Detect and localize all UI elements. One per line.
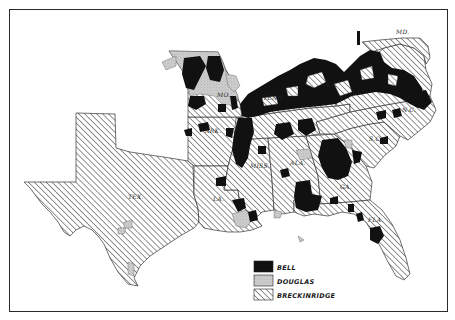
legend-swatch-breckinridge	[254, 289, 273, 300]
election-map: TEX. ARK. LA. MISS. ALA. GA. FLA. S.C. N…	[0, 0, 455, 320]
legend: BELL DOUGLAS BRECKINRIDGE	[254, 261, 336, 300]
legend-label-breckinridge: BRECKINRIDGE	[277, 292, 336, 300]
label-sc: S.C.	[369, 135, 382, 142]
legend-swatch-bell	[254, 261, 273, 272]
label-ga: GA.	[340, 183, 352, 190]
state-texas	[24, 113, 199, 286]
label-ky: KY.	[325, 81, 336, 88]
label-ark: ARK.	[204, 127, 221, 134]
label-la: LA.	[212, 195, 224, 202]
label-nc: N.C.	[401, 106, 416, 113]
label-ala: ALA.	[289, 159, 306, 166]
label-tex: TEX.	[128, 193, 144, 200]
legend-label-douglas: DOUGLAS	[277, 278, 315, 286]
label-mo: MO.	[216, 91, 231, 98]
label-fla: FLA.	[367, 216, 384, 223]
delmarva-marker	[357, 31, 360, 45]
label-md: MD.	[395, 28, 410, 35]
label-va: VA.	[352, 89, 363, 96]
label-tenn: TENN.	[263, 94, 285, 101]
legend-swatch-douglas	[254, 275, 273, 286]
label-miss: MISS.	[249, 162, 270, 169]
legend-label-bell: BELL	[277, 264, 296, 272]
